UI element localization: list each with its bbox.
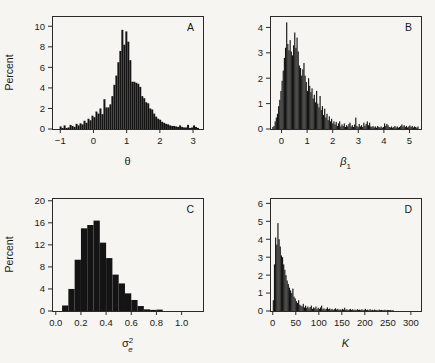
- y-tick-label: 2: [258, 73, 263, 84]
- y-tick-label: 5: [258, 216, 263, 227]
- x-tick-label: 5: [407, 135, 412, 146]
- y-tick-label: 20: [34, 195, 45, 206]
- x-tick-label: 0.0: [49, 317, 62, 328]
- y-tick-label: 2: [40, 103, 45, 114]
- x-tick-label: 250: [380, 317, 396, 328]
- y-tick-label: 0: [40, 123, 45, 134]
- y-tick-label: 3: [258, 47, 263, 58]
- y-tick-label: 8: [40, 261, 45, 272]
- histogram-bars: [272, 22, 418, 129]
- panel-a-chart: −101230246810θPercentA: [0, 0, 217, 181]
- y-tick-label: 1: [258, 98, 263, 109]
- y-tick-label: 4: [258, 22, 263, 33]
- x-tick-label: 200: [357, 317, 373, 328]
- y-tick-label: 6: [258, 198, 263, 209]
- y-tick-label: 3: [258, 252, 263, 263]
- y-tick-label: 0: [258, 123, 263, 134]
- y-tick-label: 2: [258, 270, 263, 281]
- y-tick-label: 0: [258, 305, 263, 316]
- panel-d-chart: 0501001502002503000123456KD: [218, 182, 435, 363]
- x-tick-label: 3: [190, 135, 195, 146]
- x-tick-label: 0.4: [99, 317, 112, 328]
- figure-panel-grid: −101230246810θPercentA 01234501234β1B 0.…: [0, 0, 435, 363]
- x-tick-label: 0: [91, 135, 96, 146]
- y-tick-label: 12: [34, 239, 45, 250]
- x-tick-label: 1.0: [175, 317, 188, 328]
- y-tick-label: 16: [34, 217, 45, 228]
- panel-letter: A: [187, 21, 194, 33]
- y-axis-title: Percent: [3, 236, 15, 272]
- x-tick-label: 0: [270, 317, 275, 328]
- x-tick-label: 1: [304, 135, 309, 146]
- panel-b: 01234501234β1B: [218, 0, 435, 181]
- panel-c-chart: 0.00.20.40.60.81.0048121620σ2ePercentC: [0, 182, 217, 363]
- x-tick-label: 150: [334, 317, 350, 328]
- x-tick-label: 1: [124, 135, 129, 146]
- x-tick-label: 0: [279, 135, 284, 146]
- x-tick-label: 50: [290, 317, 301, 328]
- y-tick-label: 8: [40, 41, 45, 52]
- histogram-bars: [62, 221, 163, 311]
- panel-c: 0.00.20.40.60.81.0048121620σ2ePercentC: [0, 182, 217, 363]
- x-axis-title: K: [342, 337, 350, 349]
- x-tick-label: 4: [381, 135, 386, 146]
- panel-letter: D: [404, 203, 412, 215]
- y-tick-label: 4: [40, 283, 45, 294]
- y-tick-label: 10: [34, 21, 45, 32]
- histogram-bars: [273, 223, 394, 311]
- y-tick-label: 0: [40, 305, 45, 316]
- x-tick-label: 2: [330, 135, 335, 146]
- x-axis-title: β1: [339, 155, 351, 171]
- y-tick-label: 4: [258, 234, 263, 245]
- y-tick-label: 4: [40, 82, 45, 93]
- panel-d: 0501001502002503000123456KD: [218, 182, 435, 363]
- x-tick-label: 0.8: [150, 317, 163, 328]
- panel-letter: C: [186, 203, 194, 215]
- x-axis-title: σ2e: [122, 336, 134, 354]
- x-tick-label: 0.6: [125, 317, 138, 328]
- y-axis-title: Percent: [3, 54, 15, 90]
- x-tick-label: 100: [311, 317, 327, 328]
- y-tick-label: 6: [40, 62, 45, 73]
- y-tick-label: 1: [258, 287, 263, 298]
- x-tick-label: 0.2: [74, 317, 87, 328]
- panel-a: −101230246810θPercentA: [0, 0, 217, 181]
- histogram-bars: [60, 30, 199, 129]
- x-axis-title: θ: [124, 155, 130, 167]
- x-tick-label: 2: [157, 135, 162, 146]
- x-tick-label: 300: [403, 317, 419, 328]
- panel-letter: B: [405, 21, 412, 33]
- x-tick-label: 3: [356, 135, 361, 146]
- panel-b-chart: 01234501234β1B: [218, 0, 435, 181]
- x-tick-label: −1: [55, 135, 66, 146]
